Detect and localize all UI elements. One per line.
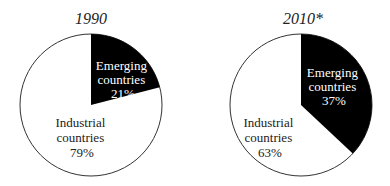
- pie-chart-1990: 1990 Emerging countries 21% Industrial c…: [20, 10, 162, 176]
- pie-title-1990: 1990: [75, 10, 107, 27]
- pie-title-2010: 2010*: [283, 10, 323, 27]
- pie-chart-2010: 2010* Emerging countries 37% Industrial …: [230, 10, 372, 176]
- pie-charts: 1990 Emerging countries 21% Industrial c…: [0, 0, 390, 186]
